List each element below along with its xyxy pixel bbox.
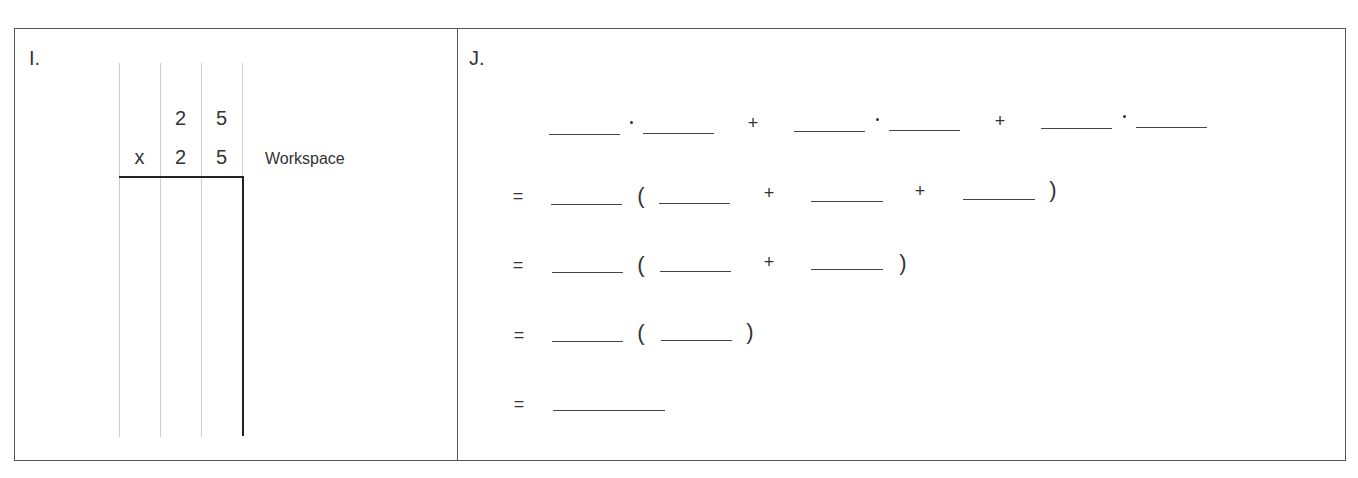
- multiply-operator: x: [119, 146, 160, 169]
- multiplier-tens-digit: 2: [160, 146, 201, 169]
- answer-blank[interactable]: [963, 199, 1035, 200]
- answer-blank[interactable]: [811, 201, 883, 202]
- answer-box-right-edge: [242, 176, 244, 436]
- open-paren: (: [637, 254, 644, 276]
- answer-blank[interactable]: [660, 271, 731, 272]
- final-answer-blank[interactable]: [553, 410, 665, 411]
- equals-sign: =: [514, 326, 525, 344]
- answer-blank[interactable]: [643, 133, 714, 134]
- plus-sign: +: [764, 253, 775, 271]
- multiplication-result-bar: [119, 176, 244, 178]
- plus-sign: +: [995, 112, 1006, 130]
- answer-blank[interactable]: [552, 341, 623, 342]
- plus-sign: +: [748, 114, 759, 132]
- plus-sign: +: [915, 182, 926, 200]
- answer-blank[interactable]: [549, 134, 620, 135]
- answer-blank[interactable]: [552, 272, 623, 273]
- close-paren: ): [899, 252, 906, 274]
- section-divider: [457, 28, 458, 461]
- equals-sign: =: [513, 256, 524, 274]
- close-paren: ): [746, 321, 753, 343]
- equals-sign: =: [513, 187, 524, 205]
- multiplicand-tens-digit: 2: [160, 107, 201, 130]
- answer-blank[interactable]: [889, 130, 960, 131]
- answer-blank[interactable]: [1041, 128, 1112, 129]
- multiply-dot: [630, 121, 633, 124]
- problem-i-label: I.: [29, 47, 40, 70]
- answer-blank[interactable]: [659, 203, 730, 204]
- problem-j-label: J.: [469, 47, 485, 70]
- worksheet-frame: [14, 28, 1346, 461]
- equals-sign: =: [514, 395, 525, 413]
- grid-column-line: [119, 63, 120, 437]
- open-paren: (: [637, 185, 644, 207]
- answer-blank[interactable]: [811, 269, 883, 270]
- answer-blank[interactable]: [661, 340, 732, 341]
- multiplicand-ones-digit: 5: [201, 107, 242, 130]
- multiply-dot: [876, 118, 879, 121]
- open-paren: (: [637, 322, 644, 344]
- multiplier-ones-digit: 5: [201, 146, 242, 169]
- answer-blank[interactable]: [794, 131, 865, 132]
- answer-blank[interactable]: [551, 204, 622, 205]
- workspace-label: Workspace: [265, 150, 345, 168]
- multiply-dot: [1123, 115, 1126, 118]
- answer-blank[interactable]: [1136, 127, 1207, 128]
- plus-sign: +: [764, 184, 775, 202]
- close-paren: ): [1049, 179, 1056, 201]
- grid-column-line: [242, 63, 243, 177]
